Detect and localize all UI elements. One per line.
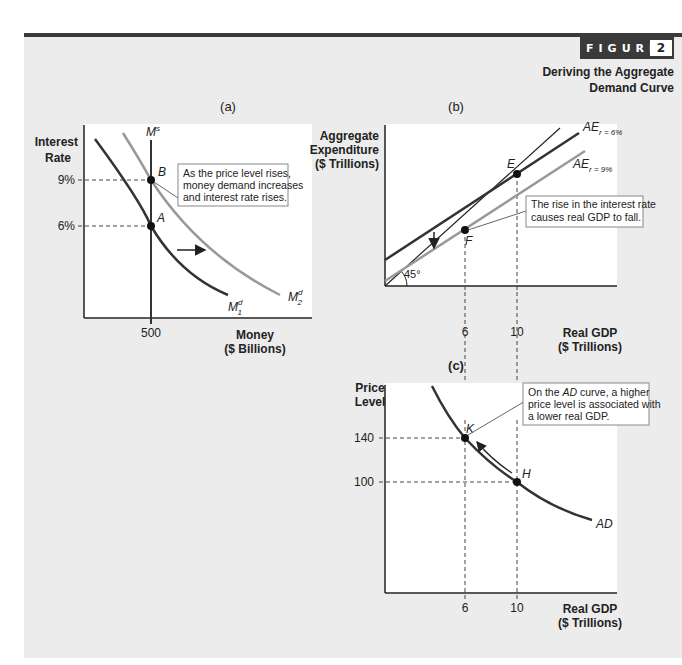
panel-c: (c) Price Level 140 100 AD K H On the AD… — [354, 358, 661, 630]
panel-b-note-2: causes real GDP to fall. — [531, 211, 641, 223]
panel-c-xtick-10: 10 — [510, 601, 524, 615]
panel-b-title: (b) — [448, 99, 464, 114]
panel-c-point-h-label: H — [522, 467, 531, 481]
panel-a-note-2: money demand increases — [183, 179, 303, 191]
panel-b-point-e-label: E — [507, 157, 516, 171]
figure-svg: (a) Interest Rate 9% 6% Ms 500 Money ($ … — [0, 0, 682, 665]
panel-a-point-b — [147, 176, 155, 184]
panel-b-point-f — [461, 226, 469, 234]
panel-a-ylabel-1: Interest — [35, 135, 78, 149]
panel-a: (a) Interest Rate 9% 6% Ms 500 Money ($ … — [35, 99, 312, 356]
panel-c-ylabel-2: Level — [355, 395, 386, 409]
panel-c-xlabel-1: Real GDP — [563, 602, 618, 616]
panel-b-ylabel-1: Aggregate — [320, 129, 380, 143]
panel-a-note-1: As the price level rises, — [183, 167, 291, 179]
panel-c-ad-label: AD — [595, 517, 613, 531]
panel-a-point-b-label: B — [158, 165, 166, 179]
panel-a-point-a — [147, 222, 155, 230]
panel-b-point-f-label: F — [465, 234, 473, 248]
panel-c-xlabel-2: ($ Trillions) — [558, 616, 622, 630]
panel-c-ylabel-1: Price — [355, 381, 385, 395]
panel-c-ytick-100: 100 — [354, 475, 374, 489]
panel-c-title: (c) — [448, 358, 464, 373]
panel-c-note-2: price level is associated with — [528, 398, 661, 410]
panel-a-xlabel-2: ($ Billions) — [224, 342, 285, 356]
panel-b-ylabel-3: ($ Trillions) — [315, 157, 379, 171]
panel-b-xlabel-2: ($ Trillions) — [558, 340, 622, 354]
panel-c-ytick-140: 140 — [354, 431, 374, 445]
panel-c-note-1: On the AD curve, a higher — [528, 386, 650, 398]
panel-a-title: (a) — [220, 99, 236, 114]
panel-a-point-a-label: A — [156, 211, 165, 225]
panel-a-xlabel-1: Money — [236, 328, 274, 342]
panel-c-note-3: a lower real GDP. — [528, 410, 610, 422]
panel-a-note-3: and interest rate rises. — [183, 191, 287, 203]
panel-a-ytick-6: 6% — [58, 219, 76, 233]
panel-b-point-e — [513, 170, 521, 178]
panel-b-xlabel-1: Real GDP — [563, 326, 618, 340]
panel-b-ylabel-2: Expenditure — [310, 143, 380, 157]
panel-b: (b) Aggregate Expenditure ($ Trillions) … — [310, 99, 656, 354]
panel-a-xtick-500: 500 — [141, 326, 161, 340]
panel-a-ytick-9: 9% — [58, 173, 76, 187]
panel-b-angle-label: 45° — [404, 268, 421, 280]
panel-a-plot-area — [84, 124, 312, 319]
panel-c-point-h — [513, 478, 521, 486]
panel-c-xtick-6: 6 — [462, 601, 469, 615]
panel-a-ylabel-2: Rate — [45, 151, 71, 165]
panel-b-note-1: The rise in the interest rate — [531, 198, 656, 210]
